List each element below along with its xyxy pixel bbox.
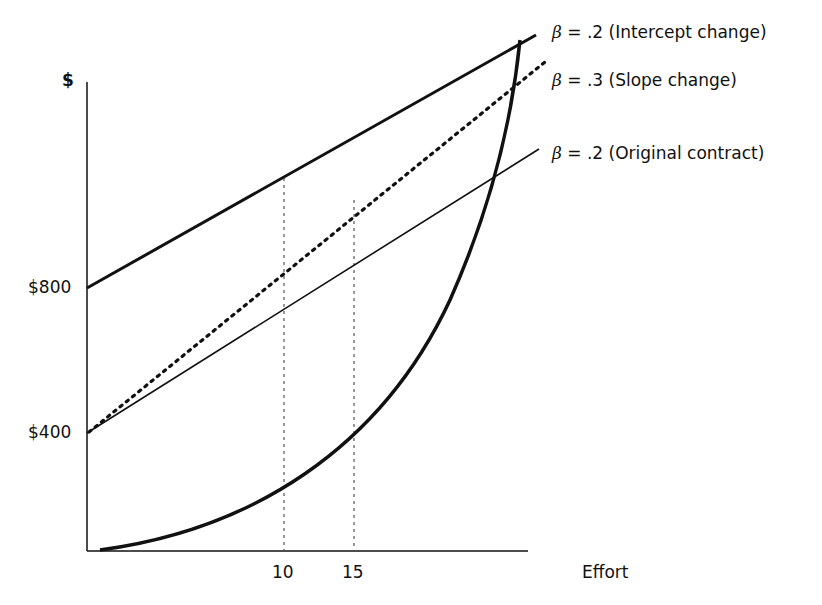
beta-symbol: β [552, 70, 562, 90]
x-axis-label: Effort [582, 562, 629, 582]
beta-symbol: β [552, 143, 562, 163]
legend-text: = .2 (Original contract) [562, 143, 764, 163]
chart-canvas [0, 0, 822, 605]
y-axis-label: $ [62, 70, 74, 90]
y-tick-400: $400 [28, 422, 71, 442]
legend-intercept-change: β = .2 (Intercept change) [552, 22, 767, 42]
legend-text: = .2 (Intercept change) [562, 22, 767, 42]
y-tick-800: $800 [28, 277, 71, 297]
cost-curve [100, 40, 520, 550]
original-contract-line [87, 149, 539, 433]
beta-symbol: β [552, 22, 562, 42]
x-tick-15: 15 [342, 562, 364, 582]
legend-slope-change: β = .3 (Slope change) [552, 70, 737, 90]
x-tick-10: 10 [272, 562, 294, 582]
legend-original-contract: β = .2 (Original contract) [552, 143, 764, 163]
legend-text: = .3 (Slope change) [562, 70, 737, 90]
